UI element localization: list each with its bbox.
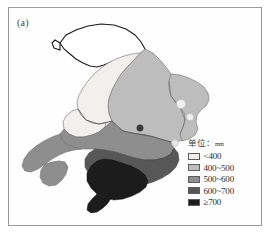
legend-row: 500~600 [188, 174, 254, 186]
map-legend: 单位：mm <400400~500500~600600~700≥700 [188, 136, 254, 208]
lake-marker-east [172, 140, 179, 147]
figure-container: (a) [0, 0, 272, 235]
legend-row: 400~500 [188, 162, 254, 174]
region-northern-inner-notch [52, 40, 60, 50]
legend-title: 单位：mm [188, 136, 254, 148]
region-peninsula-lower-hook [40, 161, 68, 186]
legend-unit: mm [215, 141, 224, 147]
lake-marker-south [186, 113, 193, 120]
legend-row: ≥700 [188, 197, 254, 209]
legend-swatch [188, 153, 200, 160]
legend-label: 400~500 [204, 163, 234, 173]
legend-row: 600~700 [188, 185, 254, 197]
legend-label: <400 [204, 151, 222, 161]
legend-swatch [188, 187, 200, 194]
legend-swatch [188, 164, 200, 171]
legend-title-text: 单位： [188, 138, 215, 148]
legend-label: 600~700 [204, 186, 234, 196]
legend-label: ≥700 [204, 197, 222, 207]
lake-marker-north [176, 99, 185, 108]
legend-items: <400400~500500~600600~700≥700 [188, 151, 254, 209]
legend-row: <400 [188, 151, 254, 163]
legend-label: 500~600 [204, 174, 234, 184]
station-dot [137, 125, 143, 131]
legend-swatch [188, 199, 200, 206]
legend-swatch [188, 176, 200, 183]
